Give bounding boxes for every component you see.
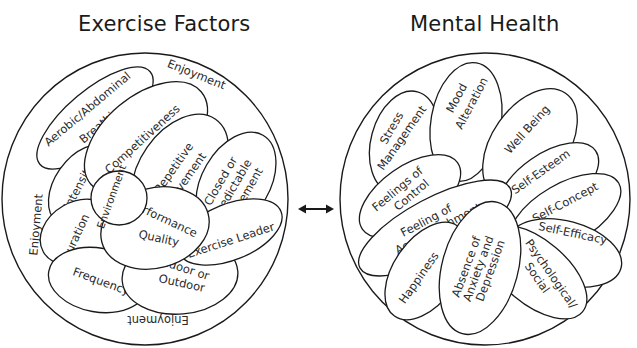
enjoyment-bottom-label: Enjoyment (127, 313, 189, 327)
exercise-factors-circle: Enjoyment Enjoyment Enjoyment Aerobic/Ab… (2, 50, 292, 345)
mental-health-circle: Stress Management Mood Alteration Well B… (340, 53, 634, 345)
double-headed-arrow-icon (298, 205, 334, 214)
